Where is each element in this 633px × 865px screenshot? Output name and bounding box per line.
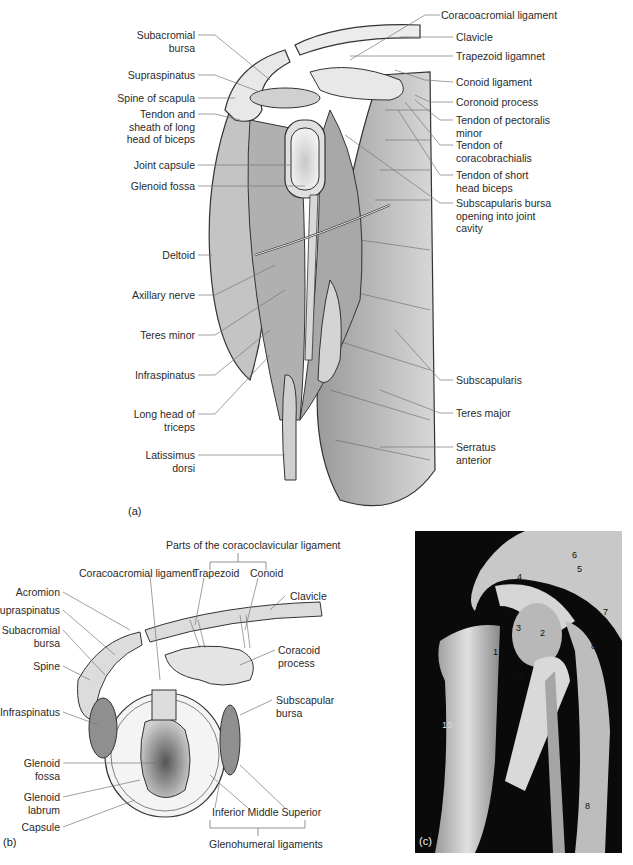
panel-label-a: (a)	[128, 505, 141, 517]
label-trapezoid-ligament: Trapezoid ligamnet	[456, 50, 545, 63]
label-spine-of-scapula: Spine of scapula	[117, 92, 195, 105]
label-teres-major: Teres major	[456, 407, 511, 420]
label-conoid-ligament: Conoid ligament	[456, 76, 532, 89]
label-tendon-sheath-long-head-biceps: Tendon and sheath of long head of biceps	[127, 108, 195, 146]
label-b-trapezoid: Trapezoid	[193, 567, 239, 580]
label-b-glenohumeral-ligaments: Glenohumeral ligaments	[209, 838, 323, 851]
marker-4: 4	[517, 572, 522, 582]
label-coronoid-process: Coronoid process	[456, 96, 538, 109]
label-b-capsule: Capsule	[21, 821, 60, 834]
figure-a-illustration	[0, 0, 633, 520]
marker-1-right: 1	[566, 658, 571, 668]
label-subscapularis: Subscapularis	[456, 374, 522, 387]
label-tendon-coracobrachialis: Tendon of coracobrachialis	[456, 139, 532, 164]
label-joint-capsule: Joint capsule	[134, 159, 195, 172]
label-serratus-anterior: Serratus anterior	[456, 441, 496, 466]
marker-8-upper: 8	[591, 641, 596, 651]
label-subscapularis-bursa: Subscapularis bursa opening into joint c…	[456, 197, 551, 235]
label-b-glenoid-fossa: Glenoid fossa	[24, 757, 60, 782]
label-b-supraspinatus: Supraspinatus	[0, 604, 60, 617]
label-b-coracoacromial-ligament: Coracoacromial ligament	[79, 567, 195, 580]
label-b-spine: Spine	[33, 660, 60, 673]
label-b-subacromial-bursa: Subacromial bursa	[2, 624, 60, 649]
marker-8-lower: 8	[585, 801, 590, 811]
marker-2: 2	[540, 628, 545, 638]
label-latissimus-dorsi: Latissimus dorsi	[145, 449, 195, 474]
marker-1-left: 1	[493, 647, 498, 657]
label-b-subscapular-bursa: Subscapular bursa	[276, 694, 334, 719]
label-b-clavicle: Clavicle	[290, 590, 327, 603]
label-b-glenoid-labrum: Glenoid labrum	[24, 791, 60, 816]
marker-10: 10	[442, 720, 452, 730]
label-clavicle: Clavicle	[456, 31, 493, 44]
label-tendon-pectoralis-minor: Tendon of pectoralis minor	[456, 114, 550, 139]
label-parts-coracoclavicular-ligament: Parts of the coracoclavicular ligament	[166, 539, 341, 552]
label-deltoid: Deltoid	[162, 249, 195, 262]
panel-label-c: (c)	[419, 835, 432, 847]
label-b-conoid: Conoid	[250, 567, 283, 580]
label-b-coracoid-process: Coracoid process	[278, 644, 320, 669]
label-b-inferior-middle-superior: Inferior Middle Superior	[212, 806, 321, 819]
marker-5: 5	[577, 564, 582, 574]
marker-6: 6	[572, 550, 577, 560]
label-axillary-nerve: Axillary nerve	[132, 289, 195, 302]
marker-7: 7	[603, 607, 608, 617]
label-supraspinatus: Supraspinatus	[128, 69, 195, 82]
label-tendon-short-head-biceps: Tendon of short head biceps	[456, 169, 528, 194]
label-subacromial-bursa: Subacromial bursa	[137, 29, 195, 54]
cadaver-photo: 6 5 4 7 3 2 8 1 1 9 10 8 (c)	[415, 531, 622, 853]
label-infraspinatus: Infraspinatus	[135, 369, 195, 382]
label-glenoid-fossa: Glenoid fossa	[131, 180, 195, 193]
label-b-infraspinatus: Infraspinatus	[0, 706, 60, 719]
label-teres-minor: Teres minor	[140, 329, 195, 342]
label-b-acromion: Acromion	[16, 586, 60, 599]
panel-label-b: (b)	[3, 836, 16, 848]
marker-3: 3	[516, 623, 521, 633]
marker-9: 9	[518, 672, 523, 682]
label-coracoacromial-ligament: Coracoacromial ligament	[441, 9, 557, 22]
label-long-head-triceps: Long head of triceps	[134, 408, 195, 433]
